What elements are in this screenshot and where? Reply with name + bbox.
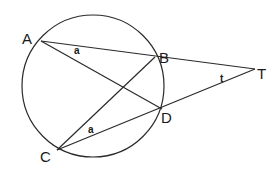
secant-CDT xyxy=(57,69,255,150)
point-label-A: A xyxy=(22,30,32,47)
chord-AD xyxy=(41,41,162,109)
point-label-T: T xyxy=(257,65,266,82)
point-label-D: D xyxy=(161,109,172,126)
point-label-B: B xyxy=(159,49,169,66)
chord-CB xyxy=(57,57,155,150)
geometry-diagram: A B C D T a a t xyxy=(0,0,279,169)
point-label-C: C xyxy=(40,148,51,165)
angle-label-BAD: a xyxy=(74,45,80,56)
angle-label-BCD: a xyxy=(88,124,94,135)
